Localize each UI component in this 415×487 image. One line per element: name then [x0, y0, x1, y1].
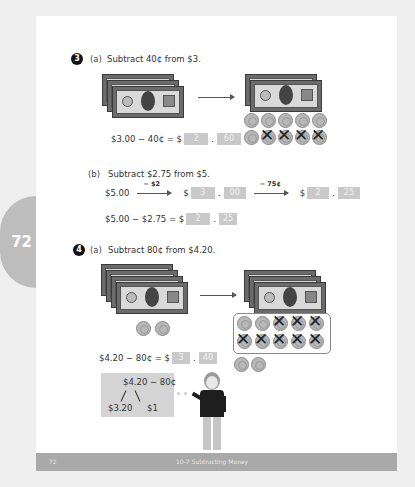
dime-coin-icon	[244, 113, 259, 128]
answer-box-dollars[interactable]: 3	[172, 352, 190, 364]
step2-arrow: − 75¢	[254, 186, 292, 200]
part-label-3a: (a)	[90, 54, 102, 64]
bills-stack-2-dollars	[245, 74, 335, 114]
step2-dollars-box[interactable]: 2	[307, 187, 329, 199]
crossed-dime-icon	[273, 334, 288, 349]
dime-coin-icon	[155, 321, 170, 336]
dimes-group-4a-extra	[234, 357, 274, 377]
crossed-dime-icon	[278, 130, 293, 145]
crossed-dime-icon	[295, 130, 310, 145]
bills-stack-3-dollars	[102, 74, 192, 124]
step1-dollars-box[interactable]: 3	[191, 187, 215, 199]
answer-box-cents[interactable]: 25	[219, 213, 237, 225]
step1-cents-box[interactable]: 00	[224, 187, 246, 199]
student-character-illustration	[190, 372, 235, 454]
split-line-left	[121, 390, 127, 401]
split-line-right	[135, 390, 141, 401]
one-dollar-bill-icon	[250, 80, 322, 112]
start-amount: $5.00	[105, 188, 129, 198]
answer-box-cents[interactable]: 40	[199, 352, 217, 364]
one-dollar-bill-icon	[254, 282, 326, 314]
page-footer: 72 10-7 Subtracting Money	[36, 453, 397, 471]
dime-coin-icon	[244, 130, 259, 145]
right-arrow-icon	[198, 97, 234, 98]
thinking-box: $4.20 − 80¢ $3.20 $1	[101, 373, 174, 417]
part-label-4a: (a)	[90, 245, 102, 255]
exchanged-dimes-box	[233, 313, 331, 354]
crossed-dime-icon	[309, 334, 324, 349]
prompt-4a: Subtract 80¢ from $4.20.	[108, 245, 215, 255]
dime-coin-icon	[136, 321, 151, 336]
page-number-tab: 72	[0, 196, 36, 288]
one-dollar-bill-icon	[112, 86, 184, 118]
right-arrow-icon	[137, 193, 171, 194]
problem-number-3: 3	[71, 53, 83, 65]
right-arrow-icon	[200, 295, 236, 296]
problem-number-4: 4	[73, 244, 85, 256]
bills-stack-4-dollars	[101, 264, 201, 320]
step1-arrow: − $2	[137, 186, 175, 200]
step-chain-3b: $5.00 − $2 $ 3 . 00 − 75¢ $ 2 . 25	[105, 186, 360, 200]
think-top: $4.20 − 80¢	[123, 377, 176, 387]
footer-page-number: 72	[49, 453, 57, 471]
step2-label: − 75¢	[260, 180, 281, 188]
answer-box-dollars[interactable]: 2	[186, 213, 210, 225]
step1-label: − $2	[143, 180, 160, 188]
equation-3b: $5.00 − $2.75 = $ 2 . 25	[105, 213, 237, 225]
think-left: $3.20	[108, 403, 132, 413]
equation-3a-lhs: $3.00 − 40¢ = $	[111, 134, 182, 144]
right-arrow-icon	[254, 193, 288, 194]
dimes-group-4a-before	[136, 321, 176, 341]
dime-coin-icon	[251, 357, 266, 372]
one-dollar-bill-icon	[116, 282, 188, 314]
equation-3a: $3.00 − 40¢ = $ 2 . 60	[111, 133, 241, 145]
thought-dot	[177, 392, 180, 395]
prompt-3b: Subtract $2.75 from $5.	[108, 169, 210, 179]
crossed-dime-icon	[312, 130, 327, 145]
crossed-dime-icon	[255, 334, 270, 349]
step2-cents-box[interactable]: 25	[338, 187, 360, 199]
equation-4a-lhs: $4.20 − 80¢ = $	[99, 353, 170, 363]
prompt-3a: Subtract 40¢ from $3.	[107, 54, 201, 64]
equation-3b-lhs: $5.00 − $2.75 = $	[105, 214, 184, 224]
crossed-dime-icon	[291, 334, 306, 349]
answer-box-dollars[interactable]: 2	[184, 133, 208, 145]
dimes-group-3a	[244, 113, 334, 149]
answer-box-cents[interactable]: 60	[217, 133, 241, 145]
think-right: $1	[147, 403, 158, 413]
bills-stack-3-dollars	[244, 270, 334, 316]
footer-section-title: 10-7 Subtracting Money	[176, 453, 248, 471]
thought-dot	[184, 392, 187, 395]
dollar-sign: $	[300, 188, 305, 198]
crossed-dime-icon	[261, 130, 276, 145]
part-label-3b: (b)	[88, 169, 100, 179]
dime-coin-icon	[234, 357, 249, 372]
crossed-dime-icon	[237, 334, 252, 349]
dollar-sign: $	[183, 188, 188, 198]
equation-4a: $4.20 − 80¢ = $ 3 . 40	[99, 352, 217, 364]
